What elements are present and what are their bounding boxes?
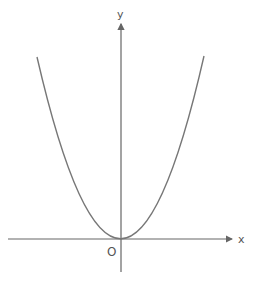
x-axis-label: x [238, 233, 245, 246]
parabola-diagram: y x O [0, 0, 268, 283]
origin-label: O [107, 245, 116, 259]
y-axis-label: y [117, 8, 124, 21]
